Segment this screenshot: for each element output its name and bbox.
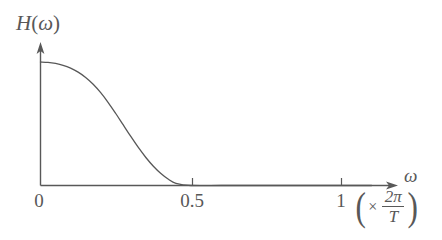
units-fraction: 2π T xyxy=(380,188,406,225)
x-axis-units-group: ( × 2π T ) xyxy=(354,188,420,225)
x-tick-label-0.5: 0.5 xyxy=(169,191,215,210)
y-axis xyxy=(37,42,45,186)
x-axis-symbol-omega: ω xyxy=(404,166,417,185)
units-open-paren: ( xyxy=(355,191,365,222)
units-close-paren: ) xyxy=(408,191,418,222)
x-tick-label-0: 0 xyxy=(28,191,50,210)
response-curve xyxy=(41,62,372,186)
x-tick-label-1: 1 xyxy=(331,191,351,210)
y-axis-label-function: H xyxy=(16,11,31,35)
units-fraction-numerator: 2π xyxy=(385,188,402,206)
y-axis-label-close-paren: ) xyxy=(53,11,60,35)
y-axis-label: H(ω) xyxy=(16,13,60,34)
units-fraction-denominator: T xyxy=(389,207,398,225)
x-axis-ticks xyxy=(193,178,342,186)
figure-root: H(ω) 0 0.5 1 ω ( × 2π T ) xyxy=(0,0,442,240)
y-axis-label-variable: ω xyxy=(38,11,53,35)
multiplication-sign-icon: × xyxy=(367,198,380,216)
